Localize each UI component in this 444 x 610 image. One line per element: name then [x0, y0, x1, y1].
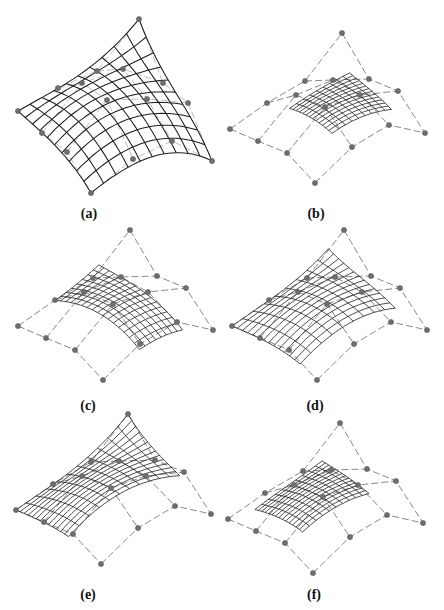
control-point — [79, 473, 84, 478]
iso-u-curve — [69, 113, 190, 161]
iso-v-curve — [127, 34, 201, 157]
control-point — [174, 319, 179, 324]
control-point — [368, 273, 373, 278]
control-point — [183, 285, 188, 290]
control-point — [181, 469, 186, 474]
control-net-column — [228, 519, 313, 573]
iso-u-curve — [16, 414, 128, 510]
control-point — [322, 104, 327, 109]
control-net-column — [344, 230, 427, 330]
iso-u-curve — [40, 447, 151, 521]
control-point — [328, 467, 333, 472]
control-point — [79, 80, 84, 85]
control-point — [266, 297, 271, 302]
control-point — [262, 490, 267, 495]
control-point — [108, 485, 113, 490]
control-point — [50, 481, 55, 486]
control-points — [227, 30, 427, 185]
control-point — [144, 96, 149, 101]
control-point — [210, 327, 215, 332]
control-point — [357, 92, 362, 97]
control-net-column — [230, 129, 315, 183]
control-point — [424, 327, 429, 332]
control-net-row — [101, 506, 211, 564]
control-point — [154, 273, 159, 278]
control-net-row — [289, 288, 400, 350]
control-point — [208, 511, 213, 516]
iso-u-curve — [33, 53, 154, 124]
control-point — [324, 301, 329, 306]
control-point — [304, 275, 309, 280]
control-point — [94, 68, 99, 73]
control-net-column — [93, 277, 177, 322]
control-point — [70, 531, 75, 536]
control-point — [137, 341, 142, 346]
control-net-row — [315, 125, 425, 183]
control-point — [145, 289, 150, 294]
control-point — [104, 97, 109, 102]
control-net-column — [340, 423, 423, 523]
control-point — [72, 347, 77, 352]
panel-label-b: (b) — [307, 206, 324, 222]
control-point — [339, 30, 344, 35]
control-point — [293, 92, 298, 97]
control-point — [253, 528, 258, 533]
control-point — [312, 180, 317, 185]
control-points — [15, 16, 214, 195]
control-point — [397, 285, 402, 290]
control-point — [120, 66, 125, 71]
control-point — [395, 88, 400, 93]
control-point — [152, 457, 157, 462]
iso-v-curve — [290, 108, 333, 133]
control-point — [257, 335, 262, 340]
control-point — [295, 289, 300, 294]
control-point — [229, 323, 234, 328]
control-point — [118, 274, 123, 279]
control-point — [366, 76, 371, 81]
control-point — [39, 130, 44, 135]
control-point — [88, 190, 93, 195]
panel-label-e: (e) — [80, 587, 96, 603]
control-net-row — [91, 141, 212, 193]
control-point — [320, 494, 325, 499]
iso-u-curve — [91, 153, 212, 193]
control-point — [355, 482, 360, 487]
panel-c — [15, 227, 215, 382]
control-point — [110, 301, 115, 306]
control-point — [351, 341, 356, 346]
iso-u-curve — [65, 472, 176, 534]
control-net-row — [232, 230, 344, 326]
control-point — [255, 138, 260, 143]
control-point — [284, 150, 289, 155]
control-point — [420, 520, 425, 525]
control-point — [143, 473, 148, 478]
control-point — [135, 525, 140, 530]
control-net-row — [18, 19, 139, 111]
control-point — [225, 516, 230, 521]
panel-label-c: (c) — [80, 398, 96, 414]
panel-f — [225, 420, 425, 575]
control-point — [43, 335, 48, 340]
surface-mesh — [232, 249, 395, 364]
control-point — [332, 274, 337, 279]
control-points — [229, 227, 429, 382]
control-net-row — [18, 230, 130, 326]
control-point — [41, 519, 46, 524]
iso-v-curve — [60, 297, 145, 347]
control-point — [169, 138, 174, 143]
control-point — [100, 377, 105, 382]
control-points — [13, 411, 213, 566]
control-point — [15, 323, 20, 328]
control-net-row — [317, 322, 427, 380]
control-net-column — [130, 230, 213, 330]
control-net-column — [128, 414, 211, 514]
control-net-column — [58, 83, 133, 159]
control-point — [127, 227, 132, 232]
iso-v-curve — [232, 326, 300, 364]
iso-v-curve — [66, 293, 151, 343]
control-net-column — [232, 326, 317, 380]
control-point — [88, 459, 93, 464]
control-point — [64, 149, 69, 154]
control-point — [337, 420, 342, 425]
bezier-surface-figure — [0, 0, 444, 610]
